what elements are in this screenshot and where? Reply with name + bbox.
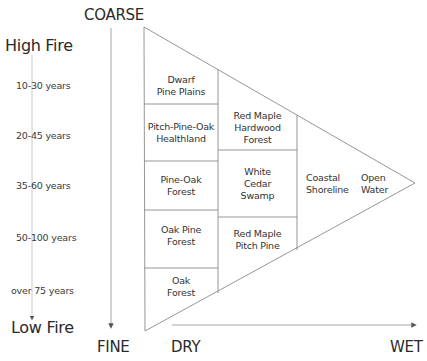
cell-line: Hardwood <box>218 122 297 134</box>
cell-line: Pine-Oak <box>144 174 218 186</box>
high-fire-label: High Fire <box>5 36 73 55</box>
community-coastal-shoreline: Coastal Shoreline <box>298 172 362 196</box>
low-fire-label: Low Fire <box>11 318 74 337</box>
cell-line: Cedar <box>218 178 297 190</box>
cell-line: Water <box>361 184 401 196</box>
dry-label: DRY <box>171 338 200 356</box>
community-dwarf-pine-plains: Dwarf Pine Plains <box>144 74 218 98</box>
fine-label: FINE <box>97 338 130 356</box>
cell-line: Dwarf <box>144 74 218 86</box>
wet-label: WET <box>390 338 423 356</box>
interval-label: over 75 years <box>11 285 74 296</box>
community-oak-forest: Oak Forest <box>144 275 218 299</box>
interval-label: 50-100 years <box>16 232 76 243</box>
interval-label: 35-60 years <box>16 180 71 191</box>
cell-line: Shoreline <box>306 184 362 196</box>
cell-line: White <box>218 166 297 178</box>
community-pine-oak-forest: Pine-Oak Forest <box>144 174 218 198</box>
cell-line: Red Maple <box>218 228 297 240</box>
community-red-maple-hardwood-forest: Red Maple Hardwood Forest <box>218 110 297 146</box>
cell-line: Coastal <box>306 172 362 184</box>
cell-line: Forest <box>144 186 218 198</box>
community-pitch-pine-oak-healthland: Pitch-Pine-Oak Healthland <box>144 121 218 145</box>
cell-line: Forest <box>218 134 297 146</box>
cell-line: Pitch Pine <box>218 240 297 252</box>
community-open-water: Open Water <box>361 172 401 196</box>
community-oak-pine-forest: Oak Pine Forest <box>144 224 218 248</box>
coarse-label: COARSE <box>84 6 144 24</box>
cell-line: Forest <box>144 236 218 248</box>
ecological-community-diagram: High Fire Low Fire COARSE FINE DRY WET 1… <box>0 0 427 361</box>
interval-label: 20-45 years <box>16 130 71 141</box>
community-white-cedar-swamp: White Cedar Swamp <box>218 166 297 202</box>
cell-line: Pine Plains <box>144 86 218 98</box>
cell-line: Pitch-Pine-Oak <box>144 121 218 133</box>
cell-line: Healthland <box>144 133 218 145</box>
cell-line: Swamp <box>218 190 297 202</box>
interval-label: 10-30 years <box>16 80 71 91</box>
cell-line: Red Maple <box>218 110 297 122</box>
cell-line: Open <box>361 172 401 184</box>
cell-line: Forest <box>144 287 218 299</box>
community-red-maple-pitch-pine: Red Maple Pitch Pine <box>218 228 297 252</box>
cell-line: Oak <box>144 275 218 287</box>
cell-line: Oak Pine <box>144 224 218 236</box>
